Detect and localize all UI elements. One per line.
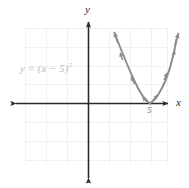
y-axis-label: y xyxy=(85,4,90,15)
curve-end-arrow-left xyxy=(114,32,118,43)
equation-text: y = (x − 5) xyxy=(20,63,68,74)
x-axis-label: x xyxy=(176,97,181,108)
equation-exponent: 2 xyxy=(68,61,72,69)
grid-lines xyxy=(25,28,168,165)
x-tick-label-5: 5 xyxy=(147,106,152,115)
equation-annotation: y = (x − 5)2 xyxy=(20,62,72,74)
graph-canvas xyxy=(0,0,189,188)
parabola-graph-figure: y x 5 y = (x − 5)2 xyxy=(0,0,189,188)
